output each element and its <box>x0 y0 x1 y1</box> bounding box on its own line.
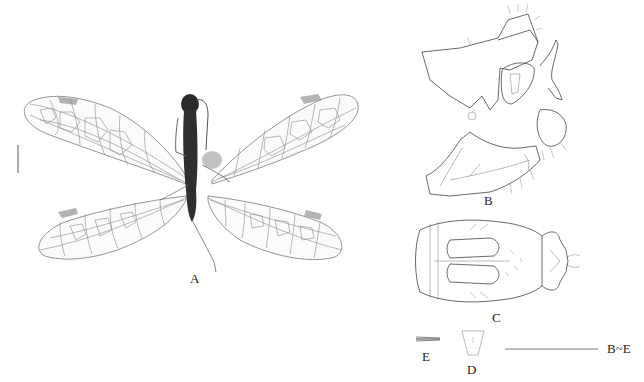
panel-label-b: B <box>484 194 493 207</box>
panel-d: D <box>455 325 495 380</box>
panel-b: B <box>410 0 610 205</box>
panel-label-c: C <box>492 311 501 324</box>
insect-body <box>160 94 230 272</box>
panel-c: C <box>410 210 590 320</box>
panel-label-d: D <box>467 363 476 376</box>
panel-label-e: E <box>422 350 430 363</box>
panel-label-a: A <box>190 272 199 285</box>
structure-d-drawing <box>460 329 490 359</box>
forewing-right <box>212 94 358 184</box>
forewing-left <box>24 96 186 184</box>
panel-a: A <box>0 0 400 300</box>
genitalia-lateral-drawing <box>410 0 610 205</box>
structure-e-drawing <box>416 334 456 346</box>
scale-bar-be-label: B~E <box>607 342 631 355</box>
panel-e: E <box>410 330 450 370</box>
hindwing-right <box>208 196 342 260</box>
scale-bar-be-line <box>505 347 600 351</box>
scale-bar-be: B~E <box>505 340 640 360</box>
genitalia-ventral-drawing <box>410 210 590 320</box>
specimen-habitus <box>0 0 400 300</box>
hindwing-left <box>39 196 186 259</box>
